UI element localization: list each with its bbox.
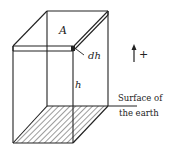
ground-hatch: [13, 106, 108, 143]
surface-label-line2: the earth: [119, 108, 159, 118]
dh-leader: [76, 49, 84, 55]
dh-slab-corner: [71, 46, 75, 51]
plus-sign: +: [139, 48, 148, 61]
up-arrow-icon: [132, 44, 137, 62]
area-label: A: [58, 24, 67, 37]
height-label: h: [75, 79, 81, 90]
atmospheric-column-diagram: A dh h + Surface of the earth: [0, 0, 171, 154]
dh-label: dh: [88, 50, 101, 61]
surface-label-line1: Surface of: [118, 93, 163, 103]
